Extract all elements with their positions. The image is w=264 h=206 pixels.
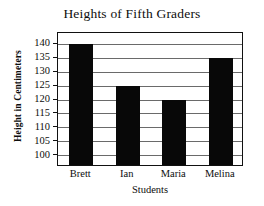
x-tick-label: Melina	[180, 168, 260, 179]
bar	[69, 44, 93, 166]
y-tick-label: 100	[0, 149, 54, 161]
y-tick-label: 135	[0, 51, 54, 63]
plot-area	[57, 32, 243, 166]
x-axis-title: Students	[57, 184, 243, 195]
y-tick-label: 120	[0, 93, 54, 105]
y-tick-label: 125	[0, 79, 54, 91]
chart-title: Heights of Fifth Graders	[0, 6, 264, 22]
bar	[116, 86, 140, 166]
y-tick-label: 130	[0, 65, 54, 77]
y-tick-label: 140	[0, 37, 54, 49]
y-tick-label: 105	[0, 135, 54, 147]
bar	[209, 58, 233, 166]
y-tick-label: 110	[0, 121, 54, 133]
bar-chart: Heights of Fifth Graders Height in Centi…	[0, 0, 264, 206]
bar	[162, 100, 186, 166]
y-tick-label: 115	[0, 107, 54, 119]
